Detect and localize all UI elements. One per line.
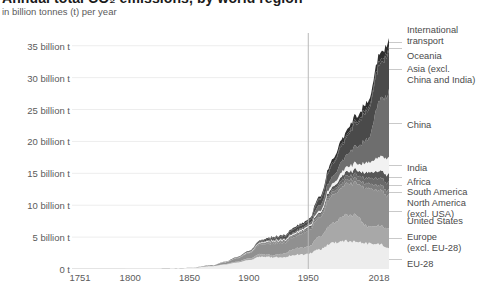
- legend-connector: [389, 42, 402, 43]
- legend-label: United States: [407, 216, 463, 227]
- legend-item[interactable]: India: [407, 163, 427, 174]
- legend-connector: [389, 177, 402, 178]
- legend-label: South America: [407, 187, 467, 198]
- legend-connector: [389, 238, 402, 239]
- chart-subtitle: in billion tonnes (t) per year: [2, 6, 117, 17]
- legend-item[interactable]: South America: [407, 187, 467, 198]
- y-axis-tick: 20 billion t: [0, 136, 70, 147]
- legend-label: Africa: [407, 177, 431, 188]
- x-axis-tick: 1950: [298, 272, 319, 283]
- y-axis-tick: 15 billion t: [0, 168, 70, 179]
- x-axis-tick: 1751: [69, 272, 90, 283]
- legend-label: Asia (excl. China and India): [407, 64, 475, 85]
- x-axis-tick: 1900: [238, 272, 259, 283]
- legend-label: India: [407, 163, 427, 174]
- legend-item[interactable]: EU-28: [407, 259, 433, 270]
- x-axis-tick: 2018: [368, 272, 389, 283]
- legend-item[interactable]: Europe (excl. EU-28): [407, 232, 461, 253]
- legend-connector: [389, 69, 402, 70]
- legend-connector: [389, 165, 402, 166]
- chart-legend: International transportOceaniaAsia (excl…: [389, 0, 487, 302]
- legend-connector: [389, 123, 402, 124]
- plot-area: [72, 33, 389, 269]
- y-axis-tick: 30 billion t: [0, 72, 70, 83]
- legend-item[interactable]: United States: [407, 216, 463, 227]
- x-axis: 175118001850190019502018: [72, 272, 389, 292]
- legend-label: Europe (excl. EU-28): [407, 232, 461, 253]
- legend-item[interactable]: Oceania: [407, 51, 442, 62]
- legend-label: EU-28: [407, 259, 433, 270]
- legend-connector: [389, 192, 402, 193]
- y-axis-tick: 10 billion t: [0, 200, 70, 211]
- legend-label: International transport: [407, 25, 458, 46]
- x-axis-tick: 1850: [179, 272, 200, 283]
- x-axis-tick: 1800: [120, 272, 141, 283]
- y-axis-tick: 35 billion t: [0, 40, 70, 51]
- stacked-area-chart: [72, 33, 389, 269]
- chart-page: Annual total CO₂ emissions, by world reg…: [0, 0, 487, 302]
- legend-connector: [389, 48, 402, 49]
- y-axis: 35 billion t30 billion t25 billion t20 b…: [0, 33, 70, 269]
- legend-item[interactable]: Asia (excl. China and India): [407, 64, 475, 85]
- legend-connector: [389, 211, 402, 212]
- legend-label: China: [407, 120, 431, 131]
- legend-item[interactable]: Africa: [407, 177, 431, 188]
- y-axis-tick: 25 billion t: [0, 104, 70, 115]
- legend-item[interactable]: China: [407, 120, 431, 131]
- y-axis-tick: 5 billion t: [0, 232, 70, 243]
- legend-item[interactable]: International transport: [407, 25, 458, 46]
- legend-label: Oceania: [407, 51, 442, 62]
- legend-connector: [389, 259, 402, 260]
- area-band: [72, 240, 389, 269]
- legend-connector: [389, 185, 402, 186]
- y-axis-tick: 0 t: [0, 264, 70, 275]
